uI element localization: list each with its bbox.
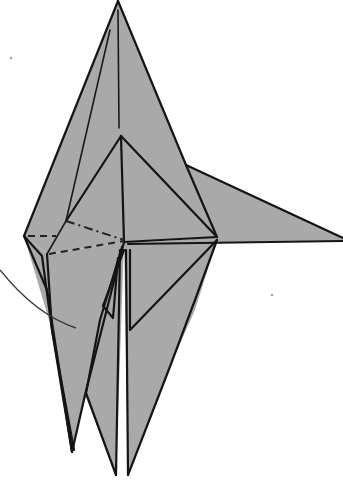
scan-speck [10, 57, 12, 59]
origami-diagram [0, 0, 343, 486]
scan-speck [271, 294, 273, 296]
crease-center-vertical-top [118, 10, 119, 128]
upper-body [24, 1, 217, 254]
